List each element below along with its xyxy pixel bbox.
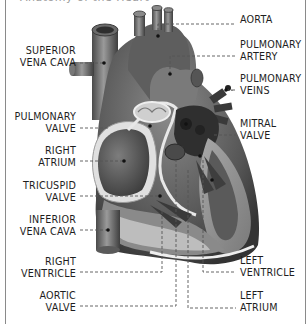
label-pulmonary-valve: PULMONARY VALVE: [4, 111, 76, 134]
label-line: RIGHT: [4, 145, 76, 157]
label-inferior-vena-cava: INFERIOR VENA CAVA: [4, 214, 76, 237]
label-line: SUPERIOR: [4, 45, 76, 57]
label-line: TRICUSPID: [4, 180, 76, 192]
label-line: VENTRICLE: [240, 267, 295, 279]
label-line: VENA CAVA: [4, 57, 76, 69]
label-tricuspid-valve: TRICUSPID VALVE: [4, 180, 76, 203]
label-aortic-valve: AORTIC VALVE: [4, 290, 76, 313]
label-line: PULMONARY: [4, 111, 76, 123]
label-left-atrium: LEFT ATRIUM: [240, 290, 278, 313]
label-pulmonary-veins: PULMONARY VEINS: [240, 73, 301, 96]
label-line: ATRIUM: [240, 302, 278, 314]
label-line: VALVE: [4, 192, 76, 204]
label-line: LEFT: [240, 255, 295, 267]
label-line: VALVE: [240, 130, 276, 142]
label-superior-vena-cava: SUPERIOR VENA CAVA: [4, 45, 76, 68]
label-line: VALVE: [4, 123, 76, 135]
label-line: RIGHT: [4, 256, 76, 268]
label-line: VENTRICLE: [4, 268, 76, 280]
label-line: VENA CAVA: [4, 226, 76, 238]
label-line: ARTERY: [240, 51, 301, 63]
label-line: MITRAL: [240, 118, 276, 130]
label-line: LEFT: [240, 290, 278, 302]
label-line: PULMONARY: [240, 73, 301, 85]
aortic-valve-shape: [165, 144, 185, 160]
label-line: VALVE: [4, 302, 76, 314]
label-line: AORTA: [240, 14, 273, 26]
label-line: ATRIUM: [4, 157, 76, 169]
label-pulmonary-artery: PULMONARY ARTERY: [240, 39, 301, 62]
inferior-vena-cava-shape: [96, 210, 120, 254]
label-line: INFERIOR: [4, 214, 76, 226]
label-line: PULMONARY: [240, 39, 301, 51]
label-right-ventricle: RIGHT VENTRICLE: [4, 256, 76, 279]
pulmonary-valve-shape: [134, 102, 170, 122]
label-right-atrium: RIGHT ATRIUM: [4, 145, 76, 168]
label-mitral-valve: MITRAL VALVE: [240, 118, 276, 141]
label-line: VEINS: [240, 85, 301, 97]
label-aorta: AORTA: [240, 14, 273, 26]
label-left-ventricle: LEFT VENTRICLE: [240, 255, 295, 278]
label-line: AORTIC: [4, 290, 76, 302]
